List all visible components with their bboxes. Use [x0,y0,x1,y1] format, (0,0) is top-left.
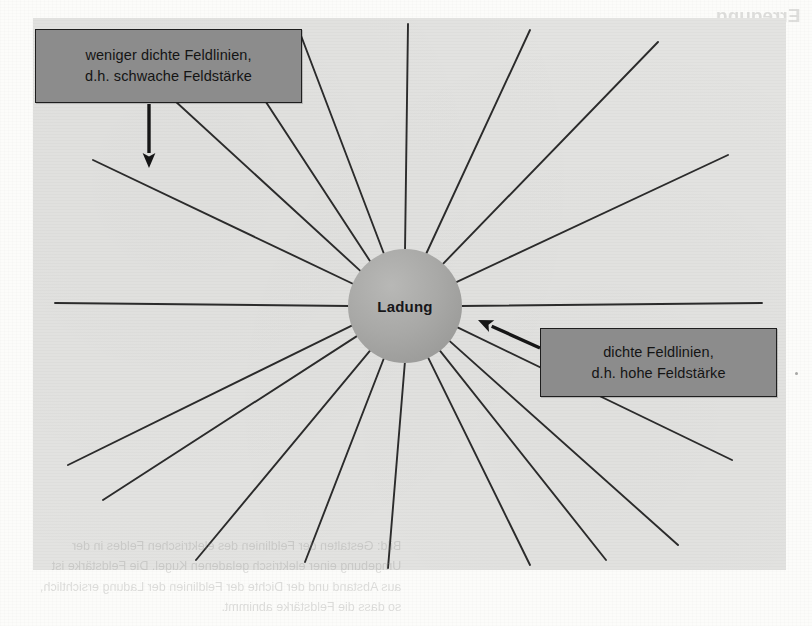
field-line [55,303,350,306]
weak-field-callout-line-2: d.h. schwache Feldstärke [85,66,252,87]
scanned-page: Erregung (Bild) Ladung weniger dichte Fe… [0,0,812,626]
field-line [388,361,405,568]
field-line [405,24,408,251]
scan-speck [795,372,798,375]
weak-field-callout-line-1: weniger dichte Feldlinien, [85,45,251,66]
charge-label: Ladung [377,298,432,315]
field-line [150,78,362,272]
field-line [426,30,530,255]
strong-field-callout-line-1: dichte Feldlinien, [603,342,714,363]
field-line [455,155,728,283]
field-line [300,33,384,255]
field-line [460,303,762,306]
callout-arrow-shaft [492,326,540,348]
field-line [442,42,658,265]
field-line [103,335,358,500]
weak-field-callout-box[interactable]: weniger dichte Feldlinien, d.h. schwache… [35,29,302,103]
field-line [68,325,353,465]
strong-field-callout-line-2: d.h. hohe Feldstärke [591,363,725,384]
callout-arrow-head [143,153,156,168]
field-line [427,356,530,565]
charge-circle: Ladung [348,249,462,363]
field-line [305,357,384,562]
field-line [196,349,371,560]
strong-field-callout-box[interactable]: dichte Feldlinien, d.h. hohe Feldstärke [540,328,777,397]
